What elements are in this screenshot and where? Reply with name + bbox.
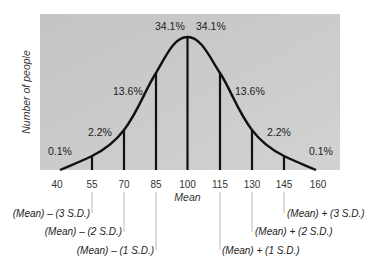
pct-left-1: 13.6%: [113, 85, 143, 97]
normal-distribution-chart: Number of people 0.1% 2.2% 13.6% 34.1% 3…: [0, 0, 377, 265]
pct-far-right: 0.1%: [309, 145, 333, 157]
sd-plus-1-label: (Mean) + (1 S.D.): [222, 245, 300, 256]
tick-130: 130: [244, 179, 261, 190]
sd-plus-3-label: (Mean) + (3 S.D.): [287, 208, 365, 219]
sd-minus-3-label: (Mean) – (3 S.D.): [13, 208, 90, 219]
pct-right-2: 2.2%: [267, 126, 291, 138]
pct-left-2: 2.2%: [88, 126, 112, 138]
pct-right-1: 13.6%: [235, 85, 265, 97]
sd-plus-2-label: (Mean) + (2 S.D.): [255, 226, 333, 237]
pct-far-left: 0.1%: [48, 145, 72, 157]
y-axis-label: Number of people: [20, 50, 32, 134]
pct-center-left: 34.1%: [155, 20, 185, 32]
sd-minus-1-label: (Mean) – (1 S.D.): [77, 245, 154, 256]
pct-center-right: 34.1%: [196, 20, 226, 32]
tick-70: 70: [118, 179, 130, 190]
tick-40: 40: [51, 179, 63, 190]
tick-145: 145: [276, 179, 293, 190]
tick-55: 55: [86, 179, 98, 190]
sd-minus-2-label: (Mean) – (2 S.D.): [45, 226, 122, 237]
tick-160: 160: [310, 179, 327, 190]
tick-115: 115: [212, 179, 228, 190]
x-axis-label: Mean: [174, 191, 200, 203]
tick-85: 85: [150, 179, 162, 190]
tick-100: 100: [179, 179, 196, 190]
x-axis-ticks: 40 55 70 85 100 115 130 145 160: [51, 179, 326, 190]
